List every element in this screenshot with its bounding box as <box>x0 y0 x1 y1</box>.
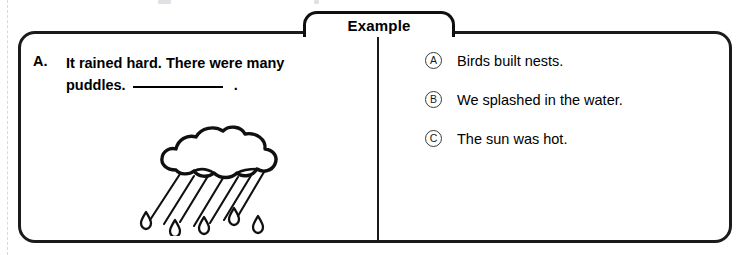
raindrop-icon <box>253 216 263 233</box>
cropped-text-artifact <box>314 0 319 4</box>
raindrop-icon <box>199 217 209 234</box>
answer-text-c: The sun was hot. <box>457 131 567 147</box>
answer-choices-panel: A Birds built nests. B We splashed in th… <box>379 31 732 243</box>
example-tab-label: Example <box>306 17 452 34</box>
example-tab: Example <box>303 11 455 37</box>
worksheet-page: Example A. It rained hard. There were ma… <box>0 0 749 255</box>
panel-divider <box>377 34 379 240</box>
raindrop-icon <box>170 220 180 236</box>
question-text-line2-label: puddles. <box>66 77 126 93</box>
answer-bubble-c[interactable]: C <box>425 130 442 147</box>
answer-text-a: Birds built nests. <box>457 53 563 69</box>
answer-option-c[interactable]: C The sun was hot. <box>457 129 567 149</box>
answer-option-b[interactable]: B We splashed in the water. <box>457 90 623 110</box>
page-fold-guide <box>7 0 8 255</box>
cropped-text-artifact <box>158 0 171 4</box>
answer-bubble-a[interactable]: A <box>425 52 442 69</box>
question-text-period: . <box>234 77 238 93</box>
answer-option-a[interactable]: A Birds built nests. <box>457 51 563 71</box>
rain-cloud-icon <box>128 116 298 236</box>
question-text-line2: puddles.. <box>66 74 238 96</box>
question-letter: A. <box>33 53 48 69</box>
answer-bubble-b[interactable]: B <box>425 91 442 108</box>
answer-text-b: We splashed in the water. <box>457 92 623 108</box>
question-text-line1: It rained hard. There were many <box>66 53 366 74</box>
answer-blank-line[interactable] <box>133 74 223 88</box>
question-prompt-panel: A. It rained hard. There were many puddl… <box>18 31 378 243</box>
raindrop-icon <box>141 212 151 229</box>
rain-cloud-illustration <box>128 116 298 236</box>
